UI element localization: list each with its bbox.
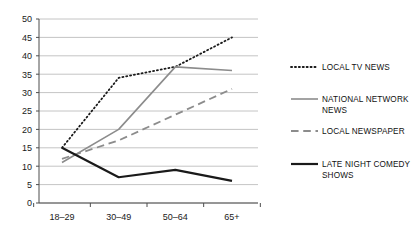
y-axis-tick-label: 30 bbox=[22, 88, 32, 98]
legend-label-4: LATE NIGHT COMEDY bbox=[322, 160, 411, 169]
chart-container: 05101520253035404550 18–2930–4950–6465+ … bbox=[0, 0, 420, 245]
x-axis-tick-label: 30–49 bbox=[106, 212, 131, 222]
legend-label-3: LOCAL NEWSPAPER bbox=[322, 127, 405, 136]
y-axis-tick-label: 25 bbox=[22, 106, 32, 116]
x-axis-tick-labels: 18–2930–4950–6465+ bbox=[49, 212, 239, 222]
y-axis-tick-label: 0 bbox=[27, 198, 32, 208]
x-axis-tick-label: 18–29 bbox=[49, 212, 74, 222]
x-axis-tick-label: 50–64 bbox=[163, 212, 188, 222]
legend-label-2-line2: NEWS bbox=[322, 106, 348, 115]
y-axis-tick-label: 35 bbox=[22, 70, 32, 80]
legend-label-4-line2: SHOWS bbox=[322, 171, 354, 180]
y-axis-tick-label: 15 bbox=[22, 143, 32, 153]
legend-label-1: LOCAL TV NEWS bbox=[322, 63, 390, 72]
chart-legend: LOCAL TV NEWSNATIONAL NETWORKNEWSLOCAL N… bbox=[291, 63, 411, 180]
series-lines bbox=[62, 37, 232, 181]
y-axis-tick-label: 5 bbox=[27, 180, 32, 190]
legend-label-2: NATIONAL NETWORK bbox=[322, 95, 409, 104]
line-chart: 05101520253035404550 18–2930–4950–6465+ … bbox=[0, 0, 420, 245]
y-axis-tick-label: 10 bbox=[22, 162, 32, 172]
series-line-4 bbox=[62, 148, 232, 181]
grid-lines bbox=[39, 19, 258, 203]
x-axis-tick-marks bbox=[34, 203, 261, 207]
y-axis-tick-label: 20 bbox=[22, 125, 32, 135]
x-axis-tick-label: 65+ bbox=[224, 212, 239, 222]
y-axis-tick-label: 50 bbox=[22, 14, 32, 24]
y-axis-tick-labels: 05101520253035404550 bbox=[22, 14, 32, 208]
y-axis-tick-label: 45 bbox=[22, 33, 32, 43]
y-axis-tick-label: 40 bbox=[22, 51, 32, 61]
